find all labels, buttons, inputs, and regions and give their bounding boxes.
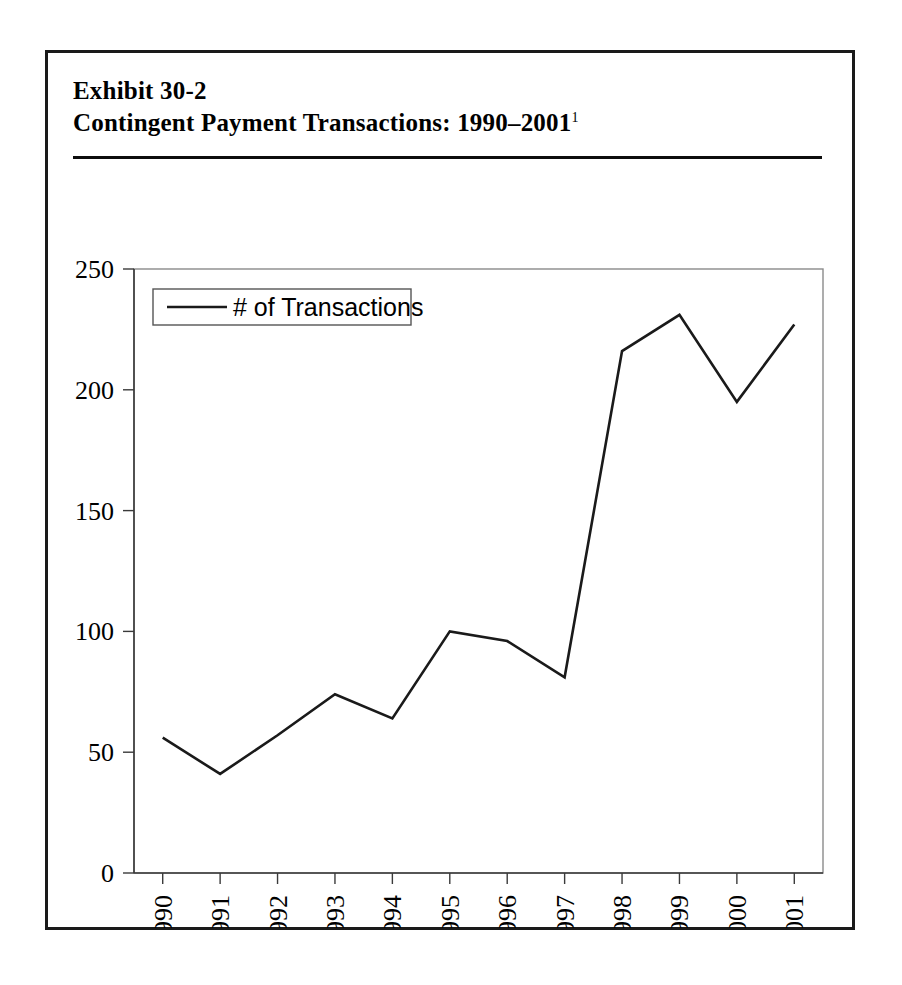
plot-frame [134, 269, 823, 873]
x-axis-tick-label: 1991 [206, 895, 235, 928]
y-axis-tick-label: 100 [75, 617, 114, 646]
y-axis-tick-label: 0 [101, 859, 114, 888]
exhibit-number: Exhibit 30-2 [73, 75, 833, 107]
x-axis-tick-label: 1999 [665, 895, 694, 928]
exhibit-title-text: Contingent Payment Transactions: 1990–20… [73, 109, 571, 136]
y-axis-tick-label: 250 [75, 255, 114, 284]
legend-entry-label: # of Transactions [233, 293, 423, 321]
y-axis-tick-label: 150 [75, 497, 114, 526]
footnote-marker: 1 [571, 110, 578, 125]
x-axis-tick-label: 1997 [551, 895, 580, 928]
y-axis-tick-label: 200 [75, 376, 114, 405]
plot-area-border [134, 269, 823, 873]
x-axis-tick-label: 1998 [608, 895, 637, 928]
exhibit-frame: Exhibit 30-2 Contingent Payment Transact… [45, 50, 855, 930]
x-axis-tick-label: 1995 [436, 895, 465, 928]
chart-container: 050100150200250 199019911992199319941995… [48, 168, 852, 928]
x-axis-tick-label: 2001 [780, 895, 809, 928]
exhibit-page: Exhibit 30-2 Contingent Payment Transact… [0, 0, 902, 985]
x-axis-tick-label: 1996 [493, 895, 522, 928]
x-axis-tick-label: 1992 [264, 895, 293, 928]
y-axis-tick-label: 50 [88, 738, 114, 767]
x-axis: 1990199119921993199419951996199719981999… [149, 873, 810, 928]
x-axis-tick-label: 2000 [723, 895, 752, 928]
y-axis: 050100150200250 [75, 255, 134, 888]
x-axis-tick-label: 1993 [321, 895, 350, 928]
x-axis-tick-label: 1990 [149, 895, 178, 928]
x-axis-tick-label: 1994 [378, 895, 407, 928]
exhibit-title: Contingent Payment Transactions: 1990–20… [73, 107, 833, 139]
title-divider-rule [73, 156, 822, 159]
chart-legend: # of Transactions [153, 289, 423, 325]
line-chart: 050100150200250 199019911992199319941995… [48, 168, 852, 928]
exhibit-title-block: Exhibit 30-2 Contingent Payment Transact… [73, 75, 833, 139]
